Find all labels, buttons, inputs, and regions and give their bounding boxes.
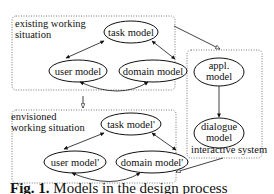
user-model-label: user model bbox=[55, 66, 101, 77]
dialogue-model-label-2: model bbox=[206, 132, 232, 143]
user-model-prime-label: user model' bbox=[51, 157, 99, 168]
caption-text: Models in the design process bbox=[53, 180, 227, 194]
arrow-existing-to-interactive bbox=[174, 26, 220, 49]
caption-prefix: Fig. 1. bbox=[10, 180, 50, 194]
edge-task-domain bbox=[152, 41, 175, 59]
figure-caption: Fig. 1. Models in the design process bbox=[10, 180, 227, 194]
existing-label-2: situation bbox=[15, 29, 52, 40]
envisioned-label-1: envisioned bbox=[11, 111, 57, 122]
diagram-canvas: existing working situation envisioned wo… bbox=[0, 0, 274, 194]
existing-label-1: existing working bbox=[15, 18, 87, 29]
appl-model-label-2: model bbox=[206, 71, 232, 82]
task-model-label: task model bbox=[108, 27, 154, 38]
domain-model-prime-label: domain model' bbox=[121, 157, 183, 168]
appl-model-label-1: appl. bbox=[209, 60, 230, 71]
edge-task-user-prime bbox=[64, 133, 104, 149]
domain-model-label: domain model bbox=[123, 66, 183, 77]
edge-task-user bbox=[66, 41, 104, 58]
task-model-prime-label: task model' bbox=[107, 119, 155, 130]
envisioned-label-2: working situation bbox=[11, 122, 86, 133]
dialogue-model-label-1: dialogue bbox=[201, 121, 237, 132]
edge-task-domain-prime bbox=[152, 133, 176, 150]
